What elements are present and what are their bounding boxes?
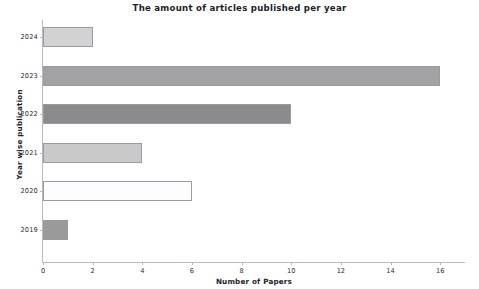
- bar-row: [43, 104, 291, 124]
- bar-chart-figure: The amount of articles published per yea…: [0, 0, 479, 289]
- x-tick-label-14: 14: [379, 267, 403, 275]
- x-tick-mark-2: [93, 262, 94, 265]
- bar-row: [43, 143, 142, 163]
- y-tick-label-2023: 2023: [2, 72, 38, 80]
- x-tick-label-8: 8: [230, 267, 254, 275]
- y-tick-label-2019: 2019: [2, 226, 38, 234]
- x-tick-label-4: 4: [130, 267, 154, 275]
- x-tick-mark-14: [391, 262, 392, 265]
- plot-area: [43, 20, 465, 262]
- bar-2019[interactable]: [43, 220, 68, 240]
- x-tick-label-12: 12: [329, 267, 353, 275]
- bar-2021[interactable]: [43, 143, 142, 163]
- x-tick-mark-16: [440, 262, 441, 265]
- bar-2020[interactable]: [43, 181, 192, 201]
- y-tick-label-2021: 2021: [2, 149, 38, 157]
- bar-row: [43, 181, 192, 201]
- y-tick-mark-2020: [40, 191, 43, 192]
- bar-row: [43, 66, 440, 86]
- y-tick-label-2024: 2024: [2, 33, 38, 41]
- y-tick-label-2020: 2020: [2, 187, 38, 195]
- bar-2024[interactable]: [43, 27, 93, 47]
- x-tick-mark-8: [242, 262, 243, 265]
- y-tick-mark-2019: [40, 230, 43, 231]
- x-axis-title: Number of Papers: [43, 277, 465, 286]
- chart-title: The amount of articles published per yea…: [0, 3, 479, 13]
- x-tick-label-16: 16: [428, 267, 452, 275]
- bar-2022[interactable]: [43, 104, 291, 124]
- y-tick-mark-2021: [40, 153, 43, 154]
- bar-2023[interactable]: [43, 66, 440, 86]
- x-tick-mark-4: [142, 262, 143, 265]
- y-tick-mark-2023: [40, 76, 43, 77]
- x-tick-mark-12: [341, 262, 342, 265]
- y-tick-mark-2024: [40, 37, 43, 38]
- bar-row: [43, 27, 93, 47]
- x-tick-mark-6: [192, 262, 193, 265]
- y-tick-mark-2022: [40, 114, 43, 115]
- y-axis-title: Year wise publication: [15, 70, 24, 200]
- bar-row: [43, 220, 68, 240]
- x-tick-label-2: 2: [81, 267, 105, 275]
- x-tick-label-10: 10: [279, 267, 303, 275]
- y-tick-label-2022: 2022: [2, 110, 38, 118]
- x-axis-line: [43, 262, 465, 263]
- x-tick-label-6: 6: [180, 267, 204, 275]
- x-tick-mark-10: [291, 262, 292, 265]
- x-tick-label-0: 0: [31, 267, 55, 275]
- x-tick-mark-0: [43, 262, 44, 265]
